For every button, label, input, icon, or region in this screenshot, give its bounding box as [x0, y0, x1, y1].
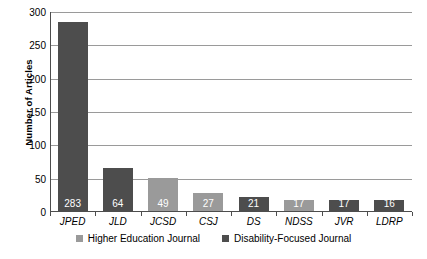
bar-value-label: 16 — [384, 199, 395, 211]
bar-rect: 17 — [329, 200, 359, 211]
x-axis-tick-labels: JPEDJLDJCSDCSJDSNDSSJVRLDRP — [50, 216, 412, 232]
x-axis-tick-label: LDRP — [376, 216, 403, 227]
y-axis-tick-labels: 050100150200250300 — [16, 0, 46, 214]
bar-rect: 16 — [374, 200, 404, 211]
bars-layer: 28364492721171716 — [50, 12, 412, 212]
bar-rect: 49 — [148, 178, 178, 211]
legend-item-1[interactable]: Higher Education Journal — [76, 233, 200, 244]
bar-value-label: 21 — [248, 199, 259, 211]
y-axis-tick-label: 200 — [16, 73, 46, 84]
bar-rect: 21 — [239, 197, 269, 211]
bar-rect: 283 — [58, 22, 88, 211]
legend-item-2[interactable]: Disability-Focused Journal — [222, 233, 351, 244]
y-axis-tick-label: 100 — [16, 140, 46, 151]
bar-jped[interactable]: 283 — [58, 22, 88, 211]
bar-rect: 64 — [103, 168, 133, 211]
bar-value-label: 49 — [158, 199, 169, 211]
x-axis-tick-label: JVR — [335, 216, 354, 227]
bar-ldrp[interactable]: 16 — [374, 200, 404, 211]
legend-label: Higher Education Journal — [88, 233, 200, 244]
bar-value-label: 27 — [203, 199, 214, 211]
bar-jld[interactable]: 64 — [103, 168, 133, 211]
bar-value-label: 64 — [112, 199, 123, 211]
legend-swatch-icon — [222, 235, 229, 242]
bar-jvr[interactable]: 17 — [329, 200, 359, 211]
bar-chart: Number of Articles 050100150200250300 28… — [0, 0, 427, 259]
x-axis-tick-label: DS — [247, 216, 261, 227]
x-axis-tick-label: JCSD — [150, 216, 176, 227]
bar-value-label: 17 — [339, 199, 350, 211]
bar-ds[interactable]: 21 — [239, 197, 269, 211]
legend-swatch-icon — [76, 235, 83, 242]
x-axis-tick-label: JPED — [60, 216, 86, 227]
y-axis-tick-label: 300 — [16, 7, 46, 18]
y-axis-tick-label: 0 — [16, 207, 46, 218]
plot-area: 28364492721171716 — [50, 12, 412, 212]
y-axis-tick-label: 250 — [16, 40, 46, 51]
bar-jcsd[interactable]: 49 — [148, 178, 178, 211]
y-axis-tick-label: 150 — [16, 107, 46, 118]
bar-ndss[interactable]: 17 — [284, 200, 314, 211]
bar-value-label: 283 — [64, 199, 81, 211]
bar-rect: 17 — [284, 200, 314, 211]
y-axis-tick-label: 50 — [16, 173, 46, 184]
x-axis-tick-label: CSJ — [199, 216, 218, 227]
bar-rect: 27 — [193, 193, 223, 211]
x-axis-tick-label: JLD — [109, 216, 127, 227]
bar-csj[interactable]: 27 — [193, 193, 223, 211]
x-axis-tick — [412, 212, 413, 216]
chart-legend: Higher Education JournalDisability-Focus… — [0, 233, 427, 244]
bar-value-label: 17 — [293, 199, 304, 211]
legend-label: Disability-Focused Journal — [234, 233, 351, 244]
x-axis-tick-label: NDSS — [285, 216, 313, 227]
